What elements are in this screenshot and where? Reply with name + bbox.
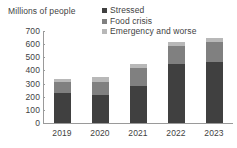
x-tick-label: 2021 (119, 128, 157, 138)
x-tick-label: 2023 (195, 128, 233, 138)
bar-group (130, 64, 147, 123)
bar-segment (206, 62, 223, 123)
y-tick-label: 400 (26, 66, 40, 75)
y-tick-label: 0 (35, 119, 40, 128)
bar-segment (92, 82, 109, 95)
plot-area (43, 31, 233, 124)
y-tick-label: 200 (26, 92, 40, 101)
y-tick-label: 100 (26, 105, 40, 114)
y-tick-label: 300 (26, 79, 40, 88)
stacked-bar-chart: Millions of people Stressed Food crisis … (0, 0, 237, 148)
x-tick-label: 2019 (43, 128, 81, 138)
bar-group (92, 77, 109, 123)
bar-segment (92, 95, 109, 123)
bar-segment (130, 86, 147, 123)
x-axis-line (43, 123, 233, 124)
bar-segment (168, 46, 185, 64)
legend-item-food-crisis: Food crisis (102, 17, 196, 26)
y-tick-label: 500 (26, 53, 40, 62)
y-axis-tick-labels: 0100200300400500600700 (14, 31, 40, 124)
bar-segment (168, 64, 185, 123)
bar-group (168, 42, 185, 123)
bar-segment (206, 42, 223, 62)
legend-item-stressed: Stressed (102, 6, 196, 15)
x-tick-label: 2022 (157, 128, 195, 138)
legend-swatch-food-crisis (102, 19, 107, 24)
legend-swatch-stressed (102, 8, 107, 13)
legend-label-food-crisis: Food crisis (110, 17, 152, 26)
legend-label-stressed: Stressed (110, 6, 144, 15)
y-axis-title: Millions of people (8, 6, 75, 16)
bar-group (206, 38, 223, 123)
x-tick-label: 2020 (81, 128, 119, 138)
bar-group (54, 79, 71, 123)
bar-segment (54, 93, 71, 123)
y-tick-label: 600 (26, 40, 40, 49)
bar-segment (130, 68, 147, 86)
bar-segment (54, 82, 71, 93)
y-tick-label: 700 (26, 27, 40, 36)
bar-series-container (43, 31, 233, 123)
